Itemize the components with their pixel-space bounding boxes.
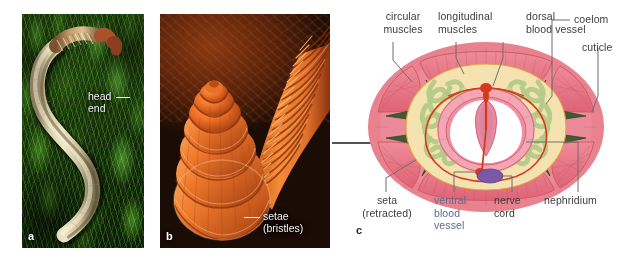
label-circular-muscles: circular muscles <box>372 10 434 35</box>
panel-b-tag: b <box>166 230 173 242</box>
panel-c-tag: c <box>356 224 362 236</box>
panel-a-earthworm-photo: head end a <box>22 14 144 248</box>
panel-b-sem-photo: setae (bristles) b <box>160 14 330 248</box>
panel-b-caption-setae: setae (bristles) <box>244 210 303 234</box>
cross-section-drawing <box>330 0 642 262</box>
setae-leader-line <box>244 217 260 218</box>
panel-a-caption-head-end: head end <box>88 90 130 114</box>
label-longitudinal-muscles: longitudinal muscles <box>438 10 518 35</box>
label-ventral-blood-vessel: ventral blood vessel <box>434 194 484 232</box>
head-end-leader-line <box>116 97 130 98</box>
label-seta-retracted: seta (retracted) <box>354 194 420 219</box>
earthworm-body-illustration <box>22 20 144 244</box>
panel-a-tag: a <box>28 230 34 242</box>
label-cuticle: cuticle <box>582 41 612 54</box>
earthworm-figure: head end a <box>0 0 642 262</box>
label-nerve-cord: nerve cord <box>494 194 538 219</box>
panel-c-cross-section: circular muscles longitudinal muscles do… <box>330 0 642 262</box>
label-nephridium: nephridium <box>544 194 597 207</box>
label-coelom: coelom <box>574 13 608 26</box>
